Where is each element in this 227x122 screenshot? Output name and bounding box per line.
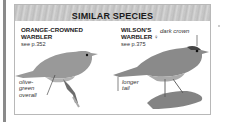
orange-crowned-warbler-illustration [15,45,115,110]
species-name-orange-crowned: ORANGE-CROWNED WARBLER [21,27,83,41]
panel-header: SIMILAR SPECIES [15,5,210,21]
annotation-line: green [19,85,37,91]
annotation-olive-green-overall: olive- green overall [19,79,37,98]
panel-title: SIMILAR SPECIES [72,11,154,21]
page-margin-rule [3,0,6,122]
similar-species-panel: SIMILAR SPECIES ORANGE-CROWNED WARBLER s… [14,4,211,115]
annotation-line: overall [19,92,37,98]
annotation-longer-tail: longer tail [122,79,139,92]
annotation-line: tail [122,85,139,91]
wilsons-warbler-illustration [113,33,213,113]
species-name-line: WARBLER [21,34,83,41]
page-speck [218,25,220,27]
